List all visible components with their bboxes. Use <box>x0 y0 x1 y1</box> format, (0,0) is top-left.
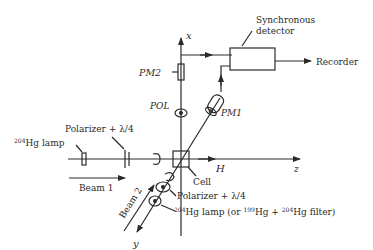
polarizer2-leader <box>170 190 176 196</box>
pol-dot <box>180 112 183 115</box>
cell-label: Cell <box>193 177 211 187</box>
lamp2-label: 204Hg lamp (or 199Hg + 204Hg filter) <box>174 206 335 217</box>
recorder-label: Recorder <box>316 57 359 67</box>
lamp2-leader <box>161 205 175 211</box>
pm1-signal-line <box>221 66 230 92</box>
z-axis-label: z <box>293 164 299 174</box>
y-axis-label: y <box>132 238 139 249</box>
polarizer1-label: Polarizer + λ/4 <box>65 124 134 134</box>
lamp1-leader <box>76 145 82 152</box>
polarizer1-leader <box>112 137 124 149</box>
lamp2-dot <box>154 200 157 203</box>
pm1-label: PM1 <box>220 108 242 118</box>
beam2-label: Beam 2 <box>117 186 144 221</box>
synchronous-detector-label-line2: detector <box>256 26 295 36</box>
detector-leader <box>242 31 252 46</box>
h-field-label: H <box>215 163 225 174</box>
x-axis-label: x <box>186 30 192 41</box>
polarizer2-dot <box>162 186 165 189</box>
synchronous-detector-box <box>230 48 275 70</box>
lamp1-label: 204Hg lamp <box>14 137 65 148</box>
beam1-label: Beam 1 <box>79 183 113 193</box>
pm2-label: PM2 <box>138 67 161 78</box>
synchronous-detector-label-line1: Synchronous <box>256 15 316 25</box>
cell-leader <box>188 167 196 176</box>
pol-label: POL <box>149 101 169 111</box>
optical-setup-diagram: x y z H Synchronous detector Recorder PM… <box>0 0 373 250</box>
polarizer2-label: Polarizer + λ/4 <box>177 191 246 201</box>
